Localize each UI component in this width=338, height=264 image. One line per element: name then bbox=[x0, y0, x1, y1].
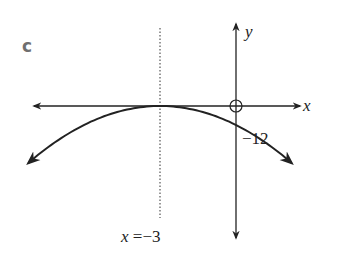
x-axis-label: x bbox=[302, 96, 311, 115]
axis-of-symmetry-value: =−3 bbox=[129, 227, 161, 246]
y-intercept-label: −12 bbox=[242, 129, 269, 148]
y-axis-label: y bbox=[243, 22, 253, 41]
axis-of-symmetry-label: x =−3 bbox=[120, 227, 160, 246]
part-label: c bbox=[22, 36, 32, 56]
parabola-diagram: c x y −12 x =−3 bbox=[0, 0, 338, 264]
